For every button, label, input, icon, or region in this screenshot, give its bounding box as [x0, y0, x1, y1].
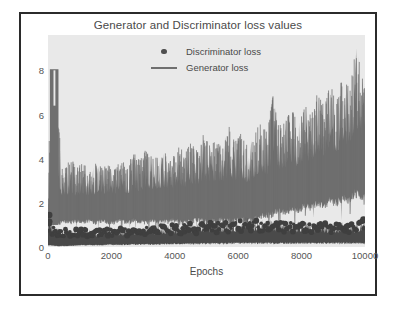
figure-inner: Generator and Discriminator loss values …: [21, 14, 375, 294]
legend-item-generator: Generator loss: [146, 60, 326, 75]
discriminator-dot: [248, 228, 254, 234]
legend-item-discriminator: Discriminator loss: [146, 44, 326, 59]
chart-title: Generator and Discriminator loss values: [21, 19, 375, 31]
discriminator-dot: [307, 222, 311, 226]
discriminator-dot: [253, 218, 259, 224]
chart-legend: Discriminator loss Generator loss: [146, 44, 326, 76]
generator-initial-spike-notch: [54, 70, 56, 105]
discriminator-dot: [346, 229, 352, 235]
discriminator-dot: [217, 227, 221, 231]
discriminator-dot: [288, 224, 293, 229]
discriminator-dot: [234, 221, 238, 225]
x-tick-label: 10000: [352, 250, 378, 261]
discriminator-dot: [187, 221, 193, 227]
y-axis-ticks: 02468: [21, 35, 44, 247]
y-tick-label: 8: [22, 65, 44, 76]
y-tick-label: 0: [22, 242, 44, 253]
discriminator-dot: [83, 227, 88, 232]
discriminator-dot: [174, 223, 179, 228]
y-tick-label: 6: [22, 109, 44, 120]
legend-label-discriminator: Discriminator loss: [182, 46, 261, 57]
x-axis-ticks: 0200040006000800010000: [48, 250, 365, 266]
x-tick-label: 8000: [291, 250, 312, 261]
figure-frame: Generator and Discriminator loss values …: [19, 12, 377, 296]
discriminator-dot: [283, 221, 289, 227]
discriminator-dot: [168, 231, 173, 236]
y-tick-label: 4: [22, 153, 44, 164]
y-tick-label: 2: [22, 197, 44, 208]
discriminator-dot: [52, 226, 56, 230]
discriminator-dot: [355, 228, 359, 232]
legend-label-generator: Generator loss: [182, 62, 248, 73]
x-tick-label: 2000: [101, 250, 122, 261]
discriminator-dot: [226, 229, 231, 234]
x-tick-label: 0: [45, 250, 50, 261]
dot-marker-icon: [146, 49, 182, 55]
x-tick-label: 4000: [164, 250, 185, 261]
discriminator-dot: [309, 229, 315, 235]
line-marker-icon: [146, 67, 182, 69]
discriminator-dot: [158, 232, 161, 235]
generator-loss-spikes: [48, 58, 364, 233]
discriminator-dot: [259, 222, 263, 226]
discriminator-dot: [238, 218, 243, 223]
discriminator-dot: [196, 228, 200, 232]
generator-spike-strokes: [48, 58, 364, 233]
x-tick-label: 6000: [228, 250, 249, 261]
discriminator-dot: [302, 221, 306, 225]
discriminator-dot: [145, 226, 148, 229]
discriminator-dot: [60, 229, 64, 233]
x-axis-label: Epochs: [48, 266, 365, 277]
discriminator-dot: [265, 221, 270, 226]
